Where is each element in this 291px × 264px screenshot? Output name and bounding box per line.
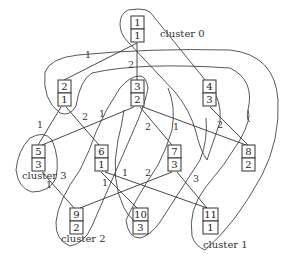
node-value-label: 2 [245, 159, 251, 170]
node-id-label: 4 [206, 81, 212, 92]
edge-weight-label: 3 [193, 173, 199, 184]
node-id-label: 8 [245, 146, 251, 157]
node-id-label: 1 [134, 17, 140, 28]
node-11: 111 [203, 208, 218, 234]
node-id-label: 5 [35, 146, 41, 157]
node-value-label: 1 [61, 94, 67, 105]
node-10: 103 [133, 208, 148, 234]
edge-weight-label: 1 [85, 49, 91, 60]
node-value-label: 3 [137, 222, 143, 233]
edge-1-2 [64, 43, 137, 80]
node-2: 21 [58, 80, 71, 106]
node-8: 82 [242, 145, 255, 171]
node-id-label: 11 [204, 209, 217, 220]
edge-weight-label: 1 [173, 121, 179, 132]
node-id-label: 10 [134, 209, 147, 220]
edge-3-8 [143, 107, 246, 145]
edge-weight-label: 2 [82, 111, 88, 122]
node-1: 11 [131, 16, 144, 42]
node-value-label: 2 [73, 222, 79, 233]
node-6: 61 [95, 145, 108, 171]
node-id-label: 7 [171, 146, 177, 157]
cluster-label-1: cluster 1 [203, 239, 248, 250]
edge-weight-label: 2 [217, 119, 223, 130]
cluster-label-2: cluster 2 [61, 233, 106, 244]
cluster-label-3: cluster 3 [22, 170, 67, 181]
node-id-label: 3 [134, 81, 140, 92]
edge-weight-label: 2 [128, 59, 134, 70]
node-5: 53 [32, 145, 45, 171]
node-value-label: 3 [35, 159, 41, 170]
node-3: 32 [131, 80, 144, 106]
node-value-label: 1 [98, 159, 104, 170]
node-id-label: 2 [61, 81, 67, 92]
node-id-label: 6 [98, 146, 104, 157]
cluster-2-lobe [115, 110, 133, 220]
node-9: 92 [70, 208, 83, 234]
node-value-label: 1 [134, 30, 140, 41]
cluster-label-0: cluster 0 [160, 28, 205, 39]
clustered-graph-diagram: 1212121212131 112132435361738292103111 c… [0, 0, 291, 264]
node-value-label: 2 [134, 94, 140, 105]
edge-weight-label: 1 [99, 108, 105, 119]
edge-weight-label: 1 [37, 119, 43, 130]
edge-weight-label: 1 [102, 177, 108, 188]
edge-weight-label: 2 [145, 167, 151, 178]
node-id-label: 9 [73, 209, 79, 220]
node-value-label: 3 [206, 94, 212, 105]
node-value-label: 3 [171, 159, 177, 170]
edge-4-8 [210, 107, 248, 145]
cluster-0-loop [45, 55, 250, 122]
edge-weight-label: 2 [145, 121, 151, 132]
node-value-label: 1 [207, 222, 213, 233]
node-4: 43 [203, 80, 216, 106]
edge-weight-label: 1 [122, 167, 128, 178]
edge-labels: 1212121212131 [37, 49, 223, 190]
node-7: 73 [168, 145, 181, 171]
